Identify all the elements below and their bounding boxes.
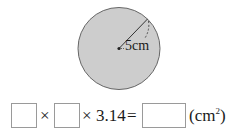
center-point xyxy=(117,47,120,50)
pi-constant: 3.14 xyxy=(96,106,126,126)
multiply-sign-1: × xyxy=(40,106,50,126)
unit-close: ) xyxy=(220,106,226,125)
answer-box-area[interactable] xyxy=(142,103,186,128)
multiply-sign-2: × xyxy=(82,106,92,126)
answer-box-radius-2[interactable] xyxy=(54,103,80,128)
area-equation: × × 3.14 = (cm2) xyxy=(0,100,233,132)
equals-sign: = xyxy=(127,106,137,126)
radius-label: 5cm xyxy=(125,38,149,54)
circle-diagram xyxy=(0,0,233,96)
answer-box-radius-1[interactable] xyxy=(11,103,37,128)
circle-figure: 5cm xyxy=(0,0,233,96)
unit-base: (cm xyxy=(189,106,215,125)
area-unit: (cm2) xyxy=(189,106,226,126)
